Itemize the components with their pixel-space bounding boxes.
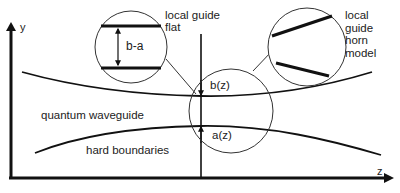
local-guide-horn-label: local guide horn model [345, 9, 376, 59]
y-axis [6, 22, 16, 178]
hard-boundaries-label: hard boundaries [86, 144, 169, 156]
a-z-label: a(z) [212, 129, 232, 141]
local-guide-flat-label: local guide flat [165, 9, 220, 33]
quantum-waveguide-label: quantum waveguide [41, 109, 144, 121]
b-z-label: b(z) [210, 79, 230, 91]
y-axis-arrow-icon [6, 22, 16, 31]
z-axis-label: z [377, 165, 383, 177]
flat-connector-line [166, 59, 196, 94]
z-axis-arrow-icon [384, 173, 394, 183]
y-axis-label: y [20, 21, 26, 33]
waveguide-diagram: y z b-a local guide flat local guide hor… [0, 0, 400, 193]
b-minus-a-label: b-a [126, 40, 143, 52]
horn-inset [268, 8, 346, 86]
